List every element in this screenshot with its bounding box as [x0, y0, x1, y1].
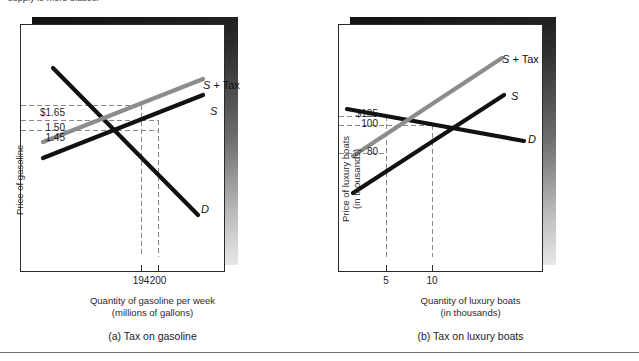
panel-a-x-axis-title-line2: (millions of gallons)	[112, 307, 193, 318]
panel-b-price-label-3: 80	[330, 146, 378, 157]
panel-a-supply-plus-tax-curve	[43, 79, 203, 142]
panel-b-x-axis-title: Quantity of luxury boats (in thousands)	[353, 295, 588, 318]
panel-a-label-demand: D	[201, 203, 209, 215]
panel-b-label-supply-plus-tax: S + Tax	[502, 53, 539, 65]
panel-a-x-axis-title-line1: Quantity of gasoline per week	[90, 295, 215, 306]
panel-b-x-axis-title-line2: (in thousands)	[440, 307, 500, 318]
top-caption: supply is more elastic.	[8, 0, 99, 3]
panel-a-supply-curve	[43, 95, 203, 158]
panel-a-plot-box	[20, 24, 225, 272]
panel-b-label-demand: D	[528, 133, 536, 145]
panel-a-label-supply: S	[210, 105, 217, 117]
panel-a-price-label-1: $1.65	[18, 107, 65, 118]
panel-a-x-axis-title: Quantity of gasoline per week (millions …	[35, 295, 270, 318]
panel-a-caption: (a) Tax on gasoline	[35, 330, 270, 342]
panel-b-x-axis-title-line1: Quantity of luxury boats	[421, 295, 521, 306]
panel-a-svg	[21, 25, 226, 273]
panel-a-label-supply-plus-tax: S + Tax	[203, 79, 240, 91]
panel-b-x-tick-label-1: 5	[369, 275, 403, 286]
panel-b-x-ticks	[387, 265, 433, 272]
panel-b-x-tick-label-2: 10	[415, 275, 449, 286]
panel-b-caption: (b) Tax on luxury boats	[353, 330, 588, 342]
panel-a-price-label-3: 1.45	[18, 132, 65, 143]
bottom-divider	[0, 352, 639, 353]
panel-a-x-ticks	[142, 265, 159, 272]
panel-b-price-label-2: 100	[330, 118, 378, 129]
panel-a-y-axis-title: Price of gasoline	[14, 145, 25, 215]
panel-a-x-tick-label-2: 200	[141, 275, 175, 286]
panel-b-supply-plus-tax-curve	[353, 58, 502, 156]
panel-b-label-supply: S	[511, 90, 518, 102]
